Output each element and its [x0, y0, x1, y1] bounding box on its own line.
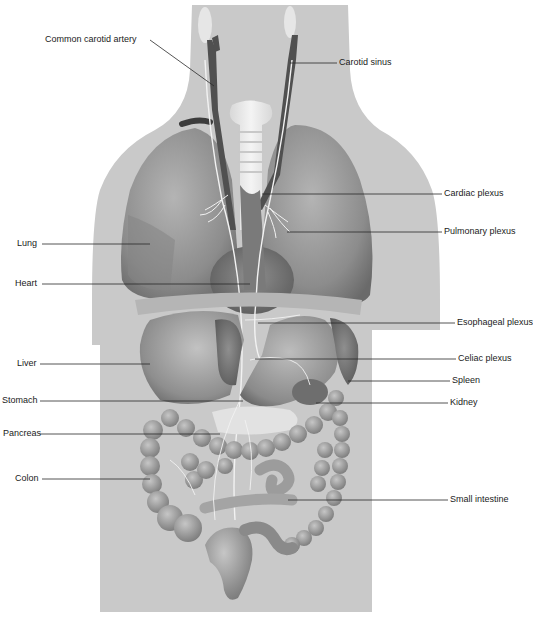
label-lung: Lung	[17, 238, 37, 249]
subclavian-vessel	[182, 120, 210, 124]
right-neck-gland	[284, 6, 296, 38]
left-neck-gland	[198, 7, 212, 43]
label-colon: Colon	[15, 473, 39, 484]
label-celiac-plexus: Celiac plexus	[458, 353, 512, 364]
label-pancreas: Pancreas	[3, 428, 41, 439]
label-spleen: Spleen	[452, 375, 480, 386]
label-kidney: Kidney	[450, 397, 478, 408]
label-heart: Heart	[15, 278, 37, 289]
label-carotid-sinus: Carotid sinus	[339, 57, 392, 68]
kidney	[292, 379, 328, 405]
label-esophageal-plexus: Esophageal plexus	[457, 317, 533, 328]
label-cardiac-plexus: Cardiac plexus	[444, 188, 504, 199]
label-common-carotid-artery: Common carotid artery	[45, 34, 137, 45]
pancreas	[212, 406, 298, 434]
label-small-intestine: Small intestine	[450, 494, 509, 505]
label-pulmonary-plexus: Pulmonary plexus	[444, 226, 516, 237]
label-liver: Liver	[17, 358, 37, 369]
label-stomach: Stomach	[2, 395, 38, 406]
